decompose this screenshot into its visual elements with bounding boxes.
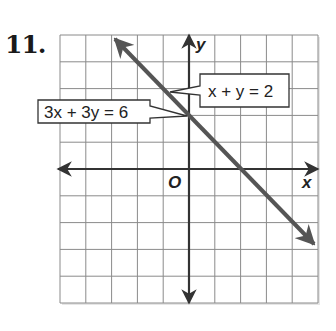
x-axis-label: x — [301, 173, 313, 192]
callout-text: 3x + 3y = 6 — [44, 103, 128, 122]
coordinate-graph: y x O x + y = 2 3x + 3y = 6 — [0, 0, 336, 331]
y-axis-label: y — [195, 35, 207, 54]
callout-text: x + y = 2 — [208, 82, 273, 101]
origin-label: O — [168, 173, 181, 192]
